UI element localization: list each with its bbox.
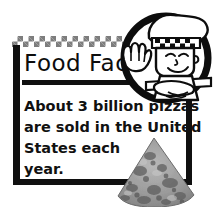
fact-line-2: are sold in the United xyxy=(24,117,184,138)
chef-cartoon-icon xyxy=(116,8,216,108)
frame-left-border xyxy=(13,45,20,185)
food-facts-card: Food Facts About 3 billion pizzas are so… xyxy=(0,0,216,207)
pizza-slice-photo xyxy=(110,138,196,207)
